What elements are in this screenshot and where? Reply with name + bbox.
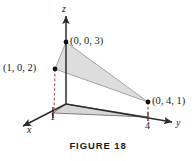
point-label-1-0-2: (1, 0, 2) [3, 63, 36, 74]
figure-caption: FIGURE 18 [0, 140, 196, 151]
x-axis-label: x [27, 125, 31, 135]
point-xz [53, 67, 58, 72]
point-label-0-4-1: (0, 4, 1) [152, 96, 185, 107]
y-tick-label-4: 4 [145, 121, 150, 131]
plane-triangle [55, 42, 148, 102]
point-yz [146, 100, 151, 105]
point-label-0-0-3: (0, 0, 3) [70, 36, 103, 47]
y-axis-label: y [176, 118, 180, 128]
coordinate-plot-svg [0, 0, 196, 161]
dashed-projection-from-1-0-2 [54, 69, 55, 113]
point-z-intercept [64, 40, 69, 45]
x-axis [23, 104, 66, 126]
figure-18-container: z y x (0, 0, 3) (1, 0, 2) (0, 4, 1) 1 4 … [0, 0, 196, 161]
z-axis-label: z [62, 4, 66, 14]
x-tick-label-1: 1 [50, 112, 55, 122]
